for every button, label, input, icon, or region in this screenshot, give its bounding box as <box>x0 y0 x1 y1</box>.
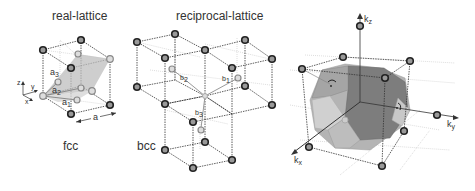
lattice-constant-arrow: a <box>76 112 116 123</box>
vector-a3-label: a3 <box>50 67 59 78</box>
atom <box>107 102 114 109</box>
atom <box>235 75 241 81</box>
diagram-canvas: real-lattice <box>0 0 475 191</box>
x-axis-label: x <box>25 98 29 105</box>
kz-axis-label: kz <box>364 14 373 25</box>
reciprocal-lattice-title: reciprocal-lattice <box>176 9 264 23</box>
real-lattice-panel: real-lattice <box>17 9 116 153</box>
atom <box>89 88 96 95</box>
atom <box>74 97 80 103</box>
vector-b2-label: b2 <box>180 74 188 83</box>
atom <box>78 37 85 44</box>
vector-b1-label: b1 <box>222 75 230 84</box>
real-axes: z y x <box>17 79 38 105</box>
atom <box>40 47 47 54</box>
atom <box>40 93 47 100</box>
y-axis-label: y <box>31 83 35 91</box>
bcc-label: bcc <box>137 139 156 153</box>
atom <box>78 85 84 91</box>
fcc-label: fcc <box>63 139 78 153</box>
z-axis-label: z <box>17 79 21 86</box>
atom <box>169 66 175 72</box>
ky-axis-label: ky <box>447 119 456 131</box>
atom <box>68 111 75 118</box>
brillouin-zone-panel: kz ky kx <box>290 13 459 175</box>
lattice-constant-label: a <box>93 112 98 122</box>
real-lattice-title: real-lattice <box>52 9 108 23</box>
reciprocal-lattice-panel: reciprocal-lattice <box>134 9 276 171</box>
atom <box>75 51 81 57</box>
vector-b3-label: b3 <box>195 109 203 118</box>
atom <box>68 65 75 72</box>
atom <box>107 56 114 63</box>
kx-axis-label: kx <box>294 155 303 166</box>
origin-atom <box>203 94 208 99</box>
atom <box>198 127 204 133</box>
